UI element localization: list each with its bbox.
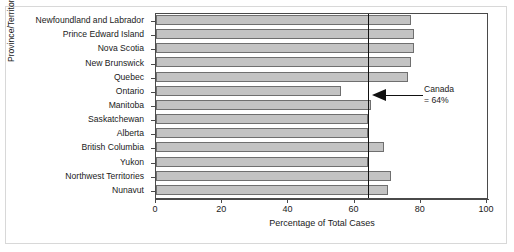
y-axis-tick-label: Prince Edward Island [63,29,144,39]
annotation-arrow-icon [372,89,386,101]
y-axis-tick-label: Manitoba [109,100,144,110]
canada-reference-line [368,14,370,198]
bar [156,57,411,67]
x-axis-tick [221,199,222,203]
bar [156,157,368,167]
bar-row [156,113,487,126]
bar-row [156,42,487,55]
y-axis-tick-labels: Newfoundland and LabradorPrince Edward I… [0,13,152,199]
y-axis-tick-label: Nova Scotia [98,43,144,53]
y-axis-tick-label: British Columbia [81,142,144,152]
canada-annotation-line2: = 64% [424,95,454,106]
bar [156,43,414,53]
bar [156,100,371,110]
bar [156,128,368,138]
bar-row [156,14,487,27]
x-axis-tick-label: 60 [334,204,374,214]
x-axis-tick [420,199,421,203]
bar-row [156,184,487,197]
x-axis-tick-label: 100 [466,204,506,214]
bar-row [156,141,487,154]
y-axis-tick-label: Nunavut [112,185,144,195]
y-axis-tick-label: New Brunswick [85,58,144,68]
bar [156,72,408,82]
canada-annotation-line1: Canada [424,84,454,95]
chart-figure: Province/Territory Newfoundland and Labr… [0,0,514,252]
bar [156,86,341,96]
bar-row [156,156,487,169]
bar-row [156,28,487,41]
bar [156,29,414,39]
x-axis-tick-label: 0 [135,204,175,214]
x-axis-tick [486,199,487,203]
x-axis-line [155,199,489,200]
bar [156,15,411,25]
bar-row [156,127,487,140]
y-axis-tick-label: Alberta [117,128,144,138]
bar [156,185,388,195]
y-axis-tick-label: Northwest Territories [65,171,144,181]
x-axis-tick-label: 40 [267,204,307,214]
y-axis-tick-label: Saskatchewan [88,114,144,124]
y-axis-tick-label: Yukon [120,157,144,167]
x-axis-tick [155,199,156,203]
bar [156,171,391,181]
annotation-leader-line [385,95,423,96]
x-axis-tick-label: 80 [400,204,440,214]
x-axis-tick [287,199,288,203]
bar-row [156,56,487,69]
x-axis-title: Percentage of Total Cases [155,218,489,228]
bar-row [156,71,487,84]
x-axis-tick [354,199,355,203]
x-axis-tick-label: 20 [201,204,241,214]
y-axis-tick-label: Ontario [116,86,144,96]
bar [156,142,384,152]
bar [156,114,368,124]
y-axis-tick-label: Newfoundland and Labrador [36,15,144,25]
plot-area [155,13,488,199]
canada-annotation: Canada = 64% [424,84,454,106]
bar-row [156,170,487,183]
y-axis-tick-label: Quebec [114,72,144,82]
